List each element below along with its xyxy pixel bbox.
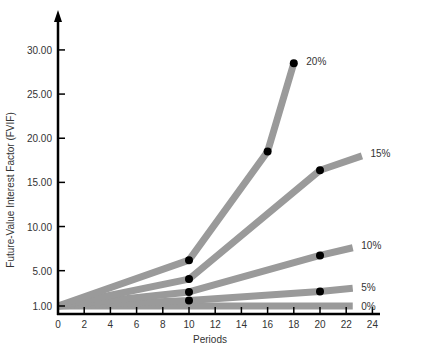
data-point-marker <box>185 296 193 304</box>
x-tick-label: 8 <box>160 319 166 330</box>
data-point-marker <box>185 275 193 283</box>
fvif-chart: 024681012141618202224 1.005.0010.0015.00… <box>0 0 429 353</box>
y-tick-label: 15.00 <box>27 177 52 188</box>
x-tick-label: 14 <box>236 319 248 330</box>
x-tick-label: 2 <box>81 319 87 330</box>
y-ticks: 1.005.0010.0015.0020.0025.0030.00 <box>27 45 65 312</box>
x-ticks: 024681012141618202224 <box>55 307 378 330</box>
data-point-marker <box>264 148 272 156</box>
series-labels: 0%5%10%15%20% <box>306 56 390 312</box>
x-tick-label: 22 <box>341 319 353 330</box>
x-tick-label: 20 <box>314 319 326 330</box>
axes <box>54 10 380 315</box>
x-tick-label: 0 <box>55 319 61 330</box>
x-tick-label: 12 <box>210 319 222 330</box>
data-point-marker <box>316 251 324 259</box>
data-point-marker <box>185 288 193 296</box>
y-tick-label: 30.00 <box>27 45 52 56</box>
series-label-5pct: 5% <box>361 282 376 293</box>
series-label-0pct: 0% <box>361 301 376 312</box>
y-tick-label: 10.00 <box>27 222 52 233</box>
data-point-marker <box>316 287 324 295</box>
data-point-marker <box>316 166 324 174</box>
y-axis-arrow-icon <box>54 10 62 22</box>
x-tick-label: 6 <box>134 319 140 330</box>
x-tick-label: 24 <box>367 319 379 330</box>
x-tick-label: 16 <box>262 319 274 330</box>
data-point-marker <box>185 256 193 264</box>
y-axis-label: Future-Value Interest Factor (FVIF) <box>5 112 16 267</box>
x-tick-label: 10 <box>183 319 195 330</box>
y-tick-label: 5.00 <box>33 266 53 277</box>
data-point-marker <box>290 59 298 67</box>
series-lines <box>58 63 362 306</box>
y-tick-label: 20.00 <box>27 133 52 144</box>
series-label-20pct: 20% <box>306 56 326 67</box>
y-tick-label: 25.00 <box>27 89 52 100</box>
series-label-10pct: 10% <box>361 240 381 251</box>
series-label-15pct: 15% <box>370 148 390 159</box>
x-tick-label: 4 <box>108 319 114 330</box>
x-tick-label: 18 <box>288 319 300 330</box>
y-tick-label: 1.00 <box>33 301 53 312</box>
x-axis-label: Periods <box>193 334 227 345</box>
